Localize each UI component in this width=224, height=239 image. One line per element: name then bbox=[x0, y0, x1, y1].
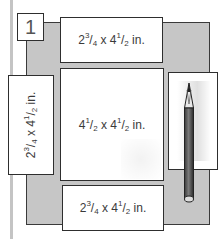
top-piece: 23/4 x 41/2 in. bbox=[60, 17, 163, 63]
top-piece-label: 23/4 x 41/2 in. bbox=[78, 33, 145, 47]
step-number: 1 bbox=[25, 16, 36, 39]
left-piece-label: 23/4 x 41/2 in. bbox=[24, 92, 38, 159]
center-piece-label: 41/2 x 41/2 in. bbox=[79, 118, 146, 132]
bottom-piece-label: 23/4 x 41/2 in. bbox=[80, 201, 147, 215]
pencil-icon bbox=[182, 82, 196, 204]
center-piece: 41/2 x 41/2 in. bbox=[60, 68, 164, 181]
left-piece: 23/4 x 41/2 in. bbox=[8, 75, 54, 175]
bottom-piece: 23/4 x 41/2 in. bbox=[62, 185, 164, 231]
step-number-badge: 1 bbox=[17, 13, 44, 41]
